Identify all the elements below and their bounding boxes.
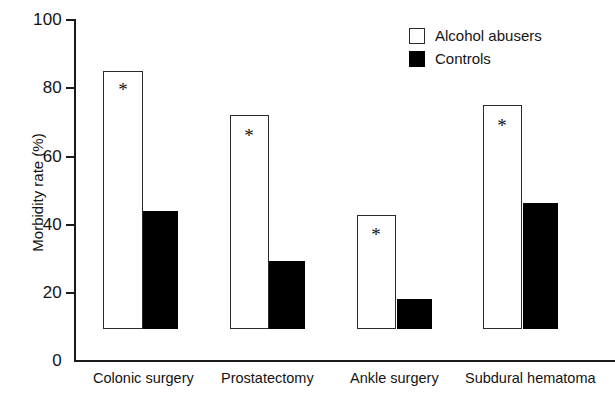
bar-controls-colonic-surgery [143,211,178,329]
significance-star-colonic-surgery: * [112,80,134,99]
legend-label-controls: Controls [435,51,491,66]
significance-star-subdural-hematoma: * [491,116,513,135]
bar-controls-prostatectomy [269,261,305,329]
x-axis-category-label-ankle-surgery: Ankle surgery [350,370,439,386]
bar-alcohol-abusers-colonic-surgery [103,71,143,329]
legend-label-alcohol-abusers: Alcohol abusers [435,28,542,43]
significance-star-ankle-surgery: * [365,225,387,244]
legend-item-controls: Controls [409,47,542,70]
bar-controls-subdural-hematoma [523,203,558,329]
x-axis-category-label-subdural-hematoma: Subdural hematoma [465,370,596,386]
legend: Alcohol abusers Controls [409,24,542,70]
morbidity-rate-bar-chart: Morbidity rate (%) 100 80 60 40 20 0 * *… [0,0,615,395]
legend-swatch-open-icon [409,28,425,44]
x-axis-category-label-prostatectomy: Prostatectomy [221,370,314,386]
bar-controls-ankle-surgery [397,299,432,329]
bar-alcohol-abusers-subdural-hematoma [483,105,522,329]
legend-swatch-filled-icon [409,51,425,67]
x-axis-category-label-colonic-surgery: Colonic surgery [93,370,194,386]
bar-alcohol-abusers-prostatectomy [230,115,269,329]
significance-star-prostatectomy: * [238,126,260,145]
legend-item-alcohol-abusers: Alcohol abusers [409,24,542,47]
